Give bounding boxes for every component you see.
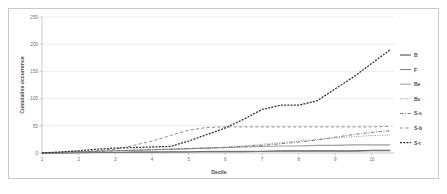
x-tick-label: 6	[224, 157, 227, 162]
y-tick-label: 150	[30, 69, 38, 74]
legend-label-be: Be	[414, 81, 421, 87]
x-tick-label: 9	[334, 157, 337, 162]
x-tick-label: 5	[187, 157, 190, 162]
y-tick-label: 50	[33, 124, 39, 129]
y-axis-ticks: 050100150200250	[30, 15, 42, 156]
x-tick-label: 7	[261, 157, 264, 162]
legend-label-b: B	[414, 52, 418, 58]
chart-legend: BFBeBsS-sS-bS-t	[400, 52, 422, 146]
y-tick-label: 0	[35, 151, 38, 156]
line-chart: 050100150200250 12345678910 Decile Cumul…	[0, 0, 447, 194]
y-tick-label: 100	[30, 96, 38, 101]
chart-figure: 050100150200250 12345678910 Decile Cumul…	[0, 0, 447, 194]
legend-label-f: F	[414, 67, 417, 73]
x-tick-label: 4	[151, 157, 154, 162]
y-axis-title: Cumulative occurrence	[19, 56, 25, 113]
x-tick-label: 2	[77, 157, 80, 162]
legend-label-st: S-t	[414, 140, 421, 146]
legend-label-sb: S-b	[414, 125, 422, 131]
x-axis-title: Decile	[211, 169, 226, 175]
x-axis-ticks: 12345678910	[41, 153, 375, 162]
x-tick-label: 10	[369, 157, 375, 162]
x-tick-label: 8	[297, 157, 300, 162]
x-tick-label: 1	[41, 157, 44, 162]
y-tick-label: 250	[30, 15, 38, 20]
legend-label-bs: Bs	[414, 96, 421, 102]
x-tick-label: 3	[114, 157, 117, 162]
y-tick-label: 200	[30, 42, 38, 47]
legend-label-ss: S-s	[414, 110, 422, 116]
